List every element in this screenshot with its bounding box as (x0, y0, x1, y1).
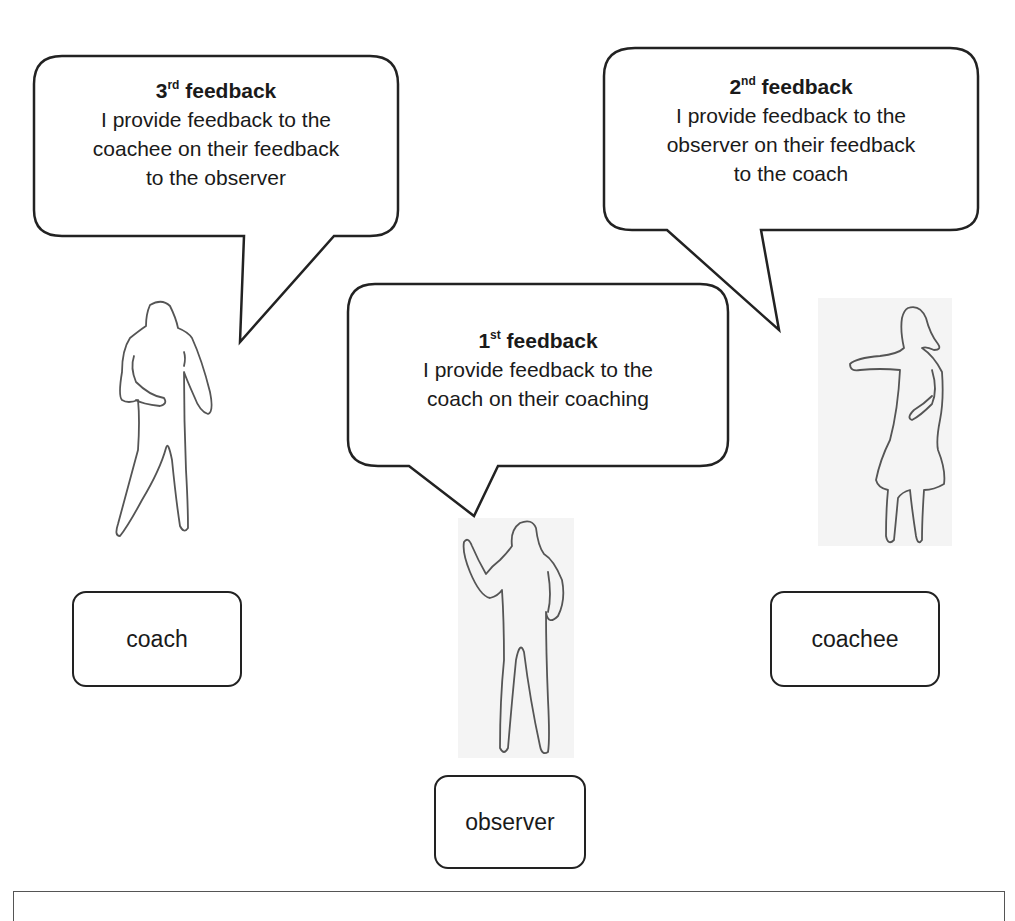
speech-bubble-first-text: 1st feedback I provide feedback to the c… (354, 326, 722, 413)
bubble-line: to the observer (40, 163, 392, 192)
coachee-arm-detail-icon (909, 370, 935, 420)
role-label-coach: coach (72, 591, 242, 687)
observer-hand-detail-icon (548, 572, 550, 612)
bubble-line: I provide feedback to the (354, 355, 722, 384)
speech-bubble-third-text: 3rd feedback I provide feedback to the c… (40, 76, 392, 192)
bubble-line: coach on their coaching (354, 384, 722, 413)
observer-figure-icon (464, 521, 564, 753)
bubble-line: to the coach (610, 159, 972, 188)
bubble-line: I provide feedback to the (40, 105, 392, 134)
coach-hand-detail-icon (184, 352, 185, 366)
bubble-line: I provide feedback to the (610, 101, 972, 130)
role-label-observer: observer (434, 775, 586, 869)
bubble-line: observer on their feedback (610, 130, 972, 159)
coach-arm-detail-icon (132, 356, 165, 406)
bubble-line: coachee on their feedback (40, 134, 392, 163)
caption-frame (13, 891, 1005, 921)
bubble-title: 3rd feedback (40, 76, 392, 105)
coach-figure-icon (116, 302, 211, 536)
role-label-coachee: coachee (770, 591, 940, 687)
speech-bubble-second-text: 2nd feedback I provide feedback to the o… (610, 72, 972, 188)
bubble-title: 2nd feedback (610, 72, 972, 101)
coachee-figure-icon (850, 307, 944, 542)
bubble-title: 1st feedback (354, 326, 722, 355)
